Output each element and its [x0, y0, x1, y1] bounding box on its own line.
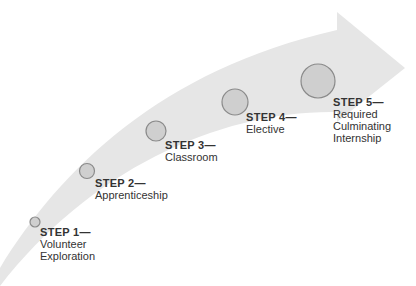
step-5-label: STEP 5— Required Culminating Internship — [333, 96, 391, 144]
step-2-title: STEP 2— — [95, 177, 168, 189]
step-4-desc-line-1: Elective — [246, 123, 297, 135]
step-5-desc-line-3: Internship — [333, 132, 391, 144]
step-1-circle-marker — [30, 217, 40, 227]
step-1-desc-line-2: Exploration — [40, 250, 95, 262]
step-2-circle-marker — [80, 164, 95, 179]
step-3-label: STEP 3— Classroom — [165, 139, 218, 163]
step-3-title: STEP 3— — [165, 139, 218, 151]
step-4-circle-marker — [222, 89, 248, 115]
step-4-label: STEP 4— Elective — [246, 111, 297, 135]
step-1-title: STEP 1— — [40, 226, 95, 238]
step-5-title: STEP 5— — [333, 96, 391, 108]
step-4-title: STEP 4— — [246, 111, 297, 123]
step-2-desc-line-1: Apprenticeship — [95, 189, 168, 201]
step-5-circle-marker — [301, 64, 335, 98]
step-2-label: STEP 2— Apprenticeship — [95, 177, 168, 201]
step-1-label: STEP 1— Volunteer Exploration — [40, 226, 95, 262]
step-3-desc-line-1: Classroom — [165, 151, 218, 163]
step-3-circle-marker — [146, 121, 166, 141]
step-5-desc-line-2: Culminating — [333, 120, 391, 132]
step-1-desc-line-1: Volunteer — [40, 238, 95, 250]
step-5-desc-line-1: Required — [333, 108, 391, 120]
